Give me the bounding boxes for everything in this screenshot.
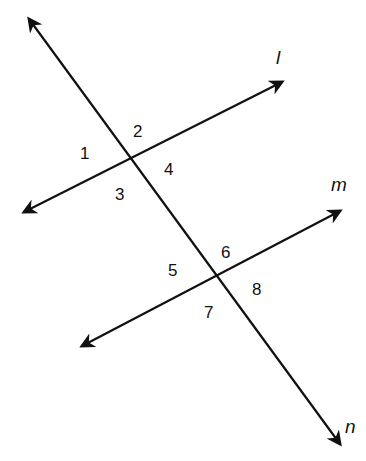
line-l [24,82,282,212]
line-n [29,19,340,444]
angle-1: 1 [80,144,89,163]
angle-2: 2 [133,122,142,141]
angle-8: 8 [252,280,261,299]
angle-6: 6 [221,243,230,262]
line-label-m: m [331,174,347,195]
angle-5: 5 [168,261,177,280]
angle-7: 7 [204,303,213,322]
line-label-n: n [345,416,356,437]
angle-3: 3 [115,185,124,204]
line-m [82,211,340,346]
angle-4: 4 [164,160,173,179]
line-label-l: l [276,47,281,68]
diagram-canvas: l m n 1 2 3 4 5 6 7 8 [0,0,366,461]
